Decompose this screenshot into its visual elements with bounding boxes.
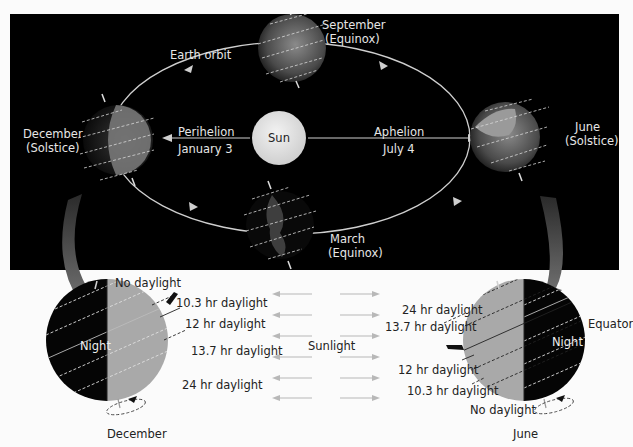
december-month: December	[23, 128, 83, 141]
dec-night-label: Night	[80, 340, 111, 353]
perihelion-label: Perihelion	[178, 126, 235, 139]
dec-lat-24: 24 hr daylight	[182, 379, 263, 392]
september-month: September	[322, 19, 386, 32]
equator-label: Equator	[588, 318, 633, 331]
june-month: June	[575, 121, 600, 134]
aphelion-date: July 4	[383, 143, 415, 156]
sun-label: Sun	[254, 132, 304, 145]
march-type: (Equinox)	[328, 247, 383, 260]
jun-lat-no-daylight: No daylight	[470, 404, 536, 417]
jun-lat-24: 24 hr daylight	[402, 304, 483, 317]
jun-lat-12: 12 hr daylight	[398, 364, 479, 377]
march-month: March	[330, 233, 365, 246]
june-caption: June	[513, 428, 538, 441]
dec-lat-13-7: 13.7 hr daylight	[191, 345, 283, 358]
dec-lat-no-daylight: No daylight	[115, 277, 181, 290]
june-type: (Solstice)	[565, 135, 619, 148]
jun-night-label: Night	[552, 336, 583, 349]
sunlight-label: Sunlight	[308, 340, 355, 353]
dec-lat-12: 12 hr daylight	[185, 318, 266, 331]
dec-lat-10-3: 10.3 hr daylight	[176, 297, 268, 310]
september-type: (Equinox)	[325, 33, 380, 46]
observer-icon	[446, 345, 464, 350]
december-type: (Solstice)	[26, 142, 80, 155]
earth-orbit-label: Earth orbit	[170, 49, 231, 62]
jun-lat-13-7: 13.7 hr daylight	[385, 321, 477, 334]
jun-lat-10-3: 10.3 hr daylight	[407, 385, 499, 398]
aphelion-label: Aphelion	[374, 126, 424, 139]
december-caption: December	[107, 428, 167, 441]
perihelion-date: January 3	[178, 143, 233, 156]
